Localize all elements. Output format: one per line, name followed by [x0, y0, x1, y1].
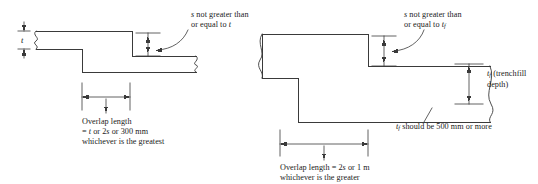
right-step-note-line2: or equal to tf — [404, 20, 446, 32]
trenchfill-depth-label-line2: depth) — [487, 80, 508, 90]
left-overlap-caption-line2: = t or 2s or 300 mm — [82, 127, 148, 137]
trenchfill-depth-rule: tf should be 500 mm or more — [396, 122, 492, 134]
right-overlap-caption-line1: Overlap length = 2s or 1 m — [280, 163, 370, 173]
left-overlap-caption-line3: whichever is the greatest — [82, 137, 164, 147]
depth-note-leader — [424, 108, 432, 122]
figure-linework — [0, 0, 538, 184]
right-overlap-caption-line2: whichever is the greater — [280, 173, 360, 183]
step-note-arrowhead-right — [392, 49, 399, 54]
right-foundation-outline — [262, 34, 490, 122]
left-step-note-line1: s not greater than — [191, 10, 249, 20]
technical-figure: t s not greater than or equal to t Overl… — [0, 0, 538, 184]
right-step-note-line1: s not greater than — [404, 10, 462, 20]
thickness-symbol-t: t — [21, 35, 23, 45]
left-step-note-line2: or equal to t — [191, 20, 231, 30]
step-note-leader-right — [394, 30, 424, 51]
left-foundation-outline — [36, 31, 196, 72]
left-break-symbol — [35, 31, 38, 49]
trenchfill-depth-label-line1: tf (trenchfill — [487, 69, 526, 81]
right-break-symbol — [195, 56, 198, 72]
step-note-leader — [158, 30, 188, 50]
step-note-arrowhead — [156, 48, 163, 53]
left-overlap-caption-line1: Overlap length — [82, 117, 132, 127]
